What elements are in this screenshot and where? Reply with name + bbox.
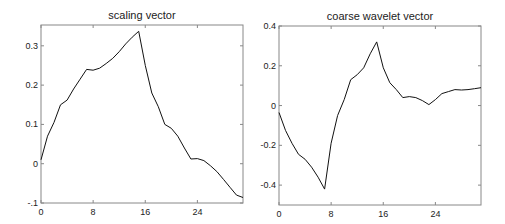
y-tick-label: 0.2 xyxy=(263,61,276,71)
x-axis-ticks: 081624 xyxy=(276,26,440,219)
y-tick-label: 0.4 xyxy=(263,21,276,31)
axes-box xyxy=(41,25,243,203)
y-tick-label: -0.2 xyxy=(260,140,276,150)
y-tick-label: 0.1 xyxy=(25,119,38,129)
y-tick-label: 0.2 xyxy=(25,80,38,90)
y-tick-label: -0.4 xyxy=(260,180,276,190)
y-tick-label: 0.3 xyxy=(25,41,38,51)
figure-canvas: scaling vector 081624 -.100.10.20.3 coar… xyxy=(0,0,505,224)
x-tick-label: 0 xyxy=(38,207,43,217)
figure: scaling vector 081624 -.100.10.20.3 coar… xyxy=(0,0,505,224)
x-tick-label: 16 xyxy=(140,207,150,217)
coarse-wavelet-vector-line xyxy=(279,42,481,189)
x-tick-label: 0 xyxy=(276,209,281,219)
scaling-vector-plot: scaling vector 081624 -.100.10.20.3 xyxy=(25,9,243,217)
x-tick-label: 16 xyxy=(378,209,388,219)
x-tick-label: 24 xyxy=(430,209,440,219)
x-tick-label: 24 xyxy=(192,207,202,217)
y-tick-label: 0 xyxy=(33,159,38,169)
y-tick-label: -.1 xyxy=(27,198,38,208)
plot-title: coarse wavelet vector xyxy=(327,10,434,22)
y-axis-ticks: -.100.10.20.3 xyxy=(25,41,243,208)
x-tick-label: 8 xyxy=(329,209,334,219)
plot-title: scaling vector xyxy=(108,9,176,21)
y-tick-label: 0 xyxy=(271,101,276,111)
coarse-wavelet-vector-plot: coarse wavelet vector 081624 -0.4-0.200.… xyxy=(260,10,481,219)
x-tick-label: 8 xyxy=(91,207,96,217)
scaling-vector-line xyxy=(41,31,243,197)
x-axis-ticks: 081624 xyxy=(38,25,202,217)
y-axis-ticks: -0.4-0.200.20.4 xyxy=(260,21,481,190)
